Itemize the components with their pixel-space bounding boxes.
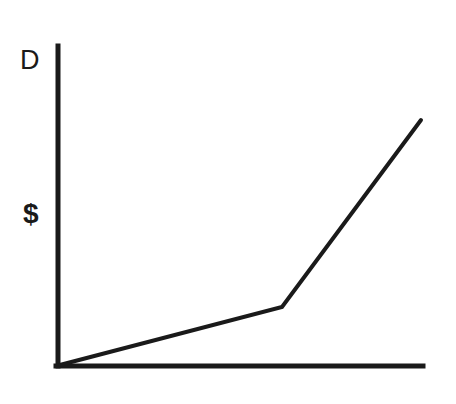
plot-area	[0, 0, 456, 404]
y-axis-currency-label: $	[23, 200, 39, 228]
chart-figure: D $	[0, 0, 456, 404]
y-axis-top-label: D	[20, 47, 40, 74]
chart-background	[0, 0, 456, 404]
